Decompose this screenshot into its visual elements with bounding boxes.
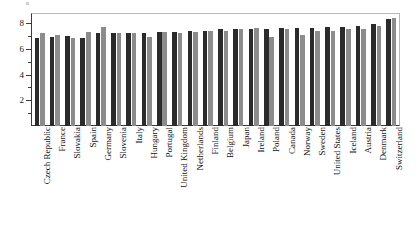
x-axis-tick-label: Ireland	[257, 127, 266, 152]
bar-group	[80, 14, 90, 126]
bar-light	[117, 33, 122, 126]
bar-light	[285, 29, 290, 126]
bar-light	[315, 31, 320, 126]
bar-dark	[371, 24, 376, 126]
bar-dark	[126, 33, 131, 126]
bar-dark	[279, 28, 284, 126]
bars-layer	[32, 14, 399, 126]
x-axis-tick-label: United Kingdom	[180, 127, 189, 188]
bar-light	[300, 35, 305, 126]
bar-light	[239, 29, 244, 126]
bar-group	[50, 14, 60, 126]
bar-group	[340, 14, 350, 126]
x-axis-tick-label: United States	[333, 127, 342, 175]
bar-group	[310, 14, 320, 126]
bar-group	[96, 14, 106, 126]
bar-dark	[356, 26, 361, 126]
bar-light	[55, 35, 60, 126]
y-axis-tick-label: 4	[20, 70, 25, 79]
x-axis-tick-label: Austria	[364, 127, 373, 154]
bar-dark	[340, 27, 345, 126]
bar-group	[233, 14, 243, 126]
y-tick-major	[26, 100, 31, 101]
bar-group	[203, 14, 213, 126]
bar-light	[392, 18, 397, 126]
bar-group	[264, 14, 274, 126]
bar-light	[193, 32, 198, 126]
bar-light	[40, 33, 45, 126]
x-axis-tick-label: Netherlands	[196, 127, 205, 170]
y-tick-minor	[28, 113, 31, 114]
bar-light	[147, 37, 152, 126]
bar-light	[361, 29, 366, 126]
bar-group	[386, 14, 396, 126]
bar-group	[325, 14, 335, 126]
bar-light	[178, 33, 183, 126]
bar-dark	[264, 29, 269, 126]
bar-dark	[188, 31, 193, 126]
bar-group	[35, 14, 45, 126]
y-axis: 2468	[0, 0, 31, 127]
bar-light	[254, 28, 259, 126]
x-axis-tick-label: Poland	[272, 127, 281, 152]
bar-dark	[218, 29, 223, 126]
x-axis-tick-label: Norway	[303, 127, 312, 156]
x-axis-tick-label: Hungary	[150, 127, 159, 159]
y-tick-minor	[28, 87, 31, 88]
bar-light	[346, 29, 351, 126]
x-axis-tick-label: Finland	[211, 127, 220, 155]
bar-group	[157, 14, 167, 126]
x-axis-tick-label: Belgium	[226, 127, 235, 158]
x-axis-tick-label: Spain	[89, 127, 98, 148]
x-axis-labels: Czech RepublicFranceSlovakiaSpainGermany…	[32, 127, 399, 243]
bar-dark	[233, 29, 238, 126]
x-axis-tick-label: Canada	[288, 127, 297, 154]
bar-dark	[111, 33, 116, 126]
y-axis-tick-label: 6	[20, 44, 25, 53]
y-axis-tick-label: 2	[20, 96, 25, 105]
x-axis-tick-label: France	[58, 127, 67, 152]
bar-dark	[325, 27, 330, 126]
bar-light	[377, 26, 382, 126]
bar-light	[101, 27, 106, 126]
y-tick-major	[26, 23, 31, 24]
bar-light	[208, 31, 213, 126]
y-tick-major	[26, 49, 31, 50]
bar-light	[331, 31, 336, 126]
bar-group	[111, 14, 121, 126]
bar-chart: 2468 Czech RepublicFranceSlovakiaSpainGe…	[0, 0, 420, 243]
x-axis-tick-label: Germany	[104, 127, 113, 161]
bar-group	[126, 14, 136, 126]
bar-light	[269, 37, 274, 126]
x-axis-tick-label: Iceland	[349, 127, 358, 153]
bar-group	[172, 14, 182, 126]
bar-dark	[203, 31, 208, 126]
bar-dark	[35, 38, 40, 126]
bar-dark	[50, 37, 55, 126]
x-axis-tick-label: Portugal	[165, 127, 174, 158]
bar-dark	[96, 33, 101, 126]
bar-group	[356, 14, 366, 126]
y-tick-major	[26, 75, 31, 76]
bar-dark	[80, 38, 85, 126]
y-axis-tick-label: 8	[20, 19, 25, 28]
bar-light	[132, 33, 137, 126]
y-tick-minor	[28, 36, 31, 37]
bar-dark	[310, 28, 315, 126]
x-axis-tick-label: Slovenia	[119, 127, 128, 159]
bar-light	[86, 32, 91, 126]
x-axis-tick-label: Japan	[242, 127, 251, 148]
bar-dark	[142, 33, 147, 126]
bar-dark	[65, 36, 70, 126]
bar-dark	[157, 32, 162, 126]
bar-light	[224, 31, 229, 126]
y-tick-minor	[28, 62, 31, 63]
bar-group	[65, 14, 75, 126]
bar-dark	[172, 32, 177, 126]
bar-group	[188, 14, 198, 126]
bar-group	[142, 14, 152, 126]
x-axis-tick-label: Switzerland	[395, 127, 404, 170]
bar-dark	[295, 28, 300, 126]
bar-dark	[249, 29, 254, 126]
bar-group	[295, 14, 305, 126]
